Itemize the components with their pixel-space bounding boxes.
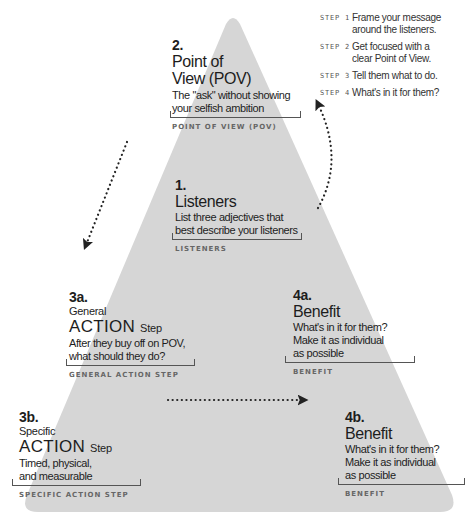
node-description: The "ask" without showing <box>172 89 304 102</box>
bracket-divider <box>172 233 302 240</box>
node-description: Make it as individual <box>345 456 475 469</box>
node-description: List three adjectives that <box>175 211 305 224</box>
steps-legend: STEP 1 Frame your message around the lis… <box>320 12 476 104</box>
node-number: 4b. <box>345 410 475 425</box>
dotted-arrow-icon <box>318 104 332 208</box>
node-title: Point of <box>172 53 304 70</box>
node-description: What's in it for them? <box>345 443 475 456</box>
node-title: Benefit <box>293 303 423 320</box>
node-caption: POINT OF VIEW (POV) <box>172 123 304 131</box>
dotted-arrow-icon <box>86 142 127 245</box>
node-specific-action-step: 3b. Specific ACTION Step Timed, physical… <box>19 410 149 499</box>
step-text: Tell them what to do. <box>352 70 437 82</box>
step-label: STEP 4 <box>320 87 352 99</box>
node-title: Benefit <box>345 425 475 442</box>
node-number: 3a. <box>69 290 199 305</box>
bracket-divider <box>170 111 301 118</box>
step-label: STEP 2 <box>320 41 352 65</box>
bracket-divider <box>66 359 195 366</box>
node-caption: LISTENERS <box>175 245 305 253</box>
node-general-action-step: 3a. General ACTION Step After they buy o… <box>69 290 199 379</box>
action-word: ACTION <box>19 437 85 456</box>
step-text: Frame your message around the listeners. <box>352 12 442 36</box>
step-text: Get focused with a clear Point of View. <box>352 41 432 65</box>
action-suffix: Step <box>90 442 112 454</box>
bracket-divider <box>338 478 465 485</box>
action-suffix: Step <box>140 322 162 334</box>
node-title: View (POV) <box>172 70 304 87</box>
node-point-of-view: 2. Point of View (POV) The "ask" without… <box>172 38 304 131</box>
step-item: STEP 2 Get focused with a clear Point of… <box>320 41 476 65</box>
node-benefit-b: 4b. Benefit What's in it for them? Make … <box>345 410 475 498</box>
step-item: STEP 3 Tell them what to do. <box>320 70 476 82</box>
node-description: Timed, physical, <box>19 457 149 470</box>
node-number: 2. <box>172 38 304 53</box>
step-item: STEP 1 Frame your message around the lis… <box>320 12 476 36</box>
bracket-divider <box>285 356 415 363</box>
action-word: ACTION <box>69 317 135 336</box>
node-caption: SPECIFIC ACTION STEP <box>19 491 149 499</box>
node-caption: BENEFIT <box>345 490 475 498</box>
node-title: ACTION Step <box>69 318 199 337</box>
node-title: Listeners <box>175 193 305 210</box>
node-caption: GENERAL ACTION STEP <box>69 371 199 379</box>
node-number: 3b. <box>19 410 149 425</box>
node-description: After they buy off on POV, <box>69 337 199 350</box>
node-description: What's in it for them? <box>293 321 423 334</box>
step-text: What's in it for them? <box>352 87 439 99</box>
node-benefit-a: 4a. Benefit What's in it for them? Make … <box>293 288 423 376</box>
node-number: 4a. <box>293 288 423 303</box>
node-caption: BENEFIT <box>293 368 423 376</box>
pyramid-diagram: STEP 1 Frame your message around the lis… <box>0 0 476 515</box>
step-label: STEP 3 <box>320 70 352 82</box>
node-title: ACTION Step <box>19 438 149 457</box>
step-label: STEP 1 <box>320 12 352 36</box>
node-number: 1. <box>175 178 305 193</box>
bracket-divider <box>12 479 141 486</box>
step-item: STEP 4 What's in it for them? <box>320 87 476 99</box>
node-description: Make it as individual <box>293 334 423 347</box>
node-listeners: 1. Listeners List three adjectives that … <box>175 178 305 253</box>
